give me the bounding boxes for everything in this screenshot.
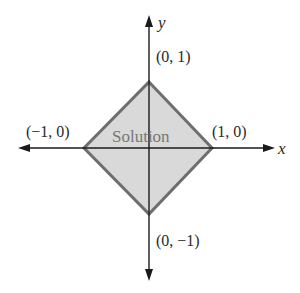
vertex-label-bottom: (0, −1)	[156, 232, 200, 250]
y-axis-up-arrow-icon	[145, 15, 153, 27]
coordinate-plane: y x (0, 1) (1, 0) (0, −1) (−1, 0) Soluti…	[0, 0, 300, 293]
vertex-label-top: (0, 1)	[156, 48, 191, 66]
y-axis-label: y	[156, 13, 166, 32]
vertex-label-left: (−1, 0)	[26, 123, 70, 141]
x-axis-label: x	[277, 139, 286, 158]
x-axis-right-arrow-icon	[263, 144, 275, 152]
y-axis-down-arrow-icon	[145, 269, 153, 281]
vertex-label-right: (1, 0)	[212, 123, 247, 141]
x-axis-left-arrow-icon	[18, 144, 30, 152]
solution-label: Solution	[112, 127, 170, 146]
